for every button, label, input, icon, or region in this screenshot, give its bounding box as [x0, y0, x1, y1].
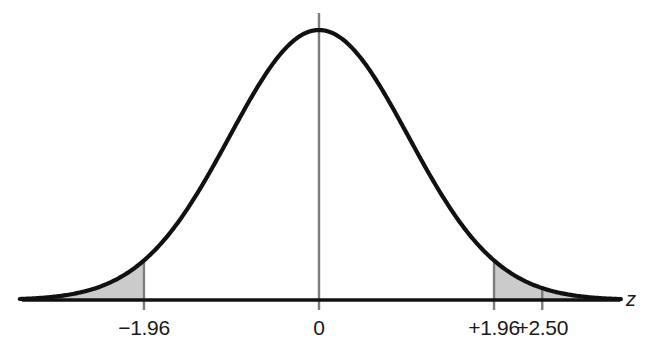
x-tick-label-neg-1-96: −1.96	[118, 316, 170, 340]
x-tick-label-pos-2-50: +2.50	[516, 316, 568, 340]
vertical-reference-lines	[144, 13, 542, 310]
normal-distribution-figure: −1.96 0 +1.96 +2.50 z	[0, 0, 653, 351]
x-tick-label-pos-1-96: +1.96	[468, 316, 520, 340]
x-tick-label-zero: 0	[313, 316, 324, 340]
normal-curve	[20, 30, 621, 299]
z-axis-label: z	[626, 288, 636, 311]
distribution-chart	[0, 0, 653, 351]
